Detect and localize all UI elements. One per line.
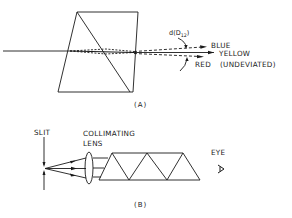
lens-label: LENS bbox=[83, 139, 103, 148]
yellow-label: YELLOW bbox=[218, 49, 250, 58]
figure-b bbox=[43, 137, 225, 190]
dispersion-diagram: d(D12) BLUE YELLOW RED (UNDEVIATED) (A) … bbox=[0, 0, 292, 218]
slit-label: SLIT bbox=[34, 128, 51, 137]
red-label: RED bbox=[195, 60, 211, 69]
caption-b: (B) bbox=[134, 201, 147, 209]
figure-a bbox=[3, 12, 214, 92]
collimating-lens bbox=[85, 152, 93, 184]
red-ray bbox=[134, 54, 200, 57]
caption-a: (A) bbox=[134, 101, 147, 109]
undeviated-label: (UNDEVIATED) bbox=[220, 60, 276, 69]
eye-icon bbox=[218, 165, 224, 173]
deviation-angle-label: d(D12) bbox=[169, 29, 189, 38]
collimating-label: COLLIMATING bbox=[83, 129, 135, 138]
eye-label: EYE bbox=[211, 148, 226, 157]
blue-ray bbox=[134, 47, 203, 52]
